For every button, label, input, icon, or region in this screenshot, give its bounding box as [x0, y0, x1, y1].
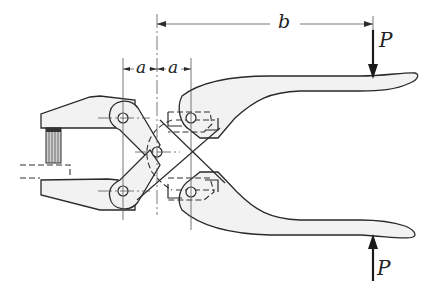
dimension-b — [157, 16, 373, 30]
upper-handle — [179, 73, 418, 138]
force-arrow-top — [368, 30, 378, 79]
label-a-right: a — [168, 59, 178, 76]
crimp-die — [46, 128, 61, 163]
label-force-bottom: P — [377, 258, 390, 278]
open-jaw-phantom — [20, 165, 70, 178]
label-a-left: a — [136, 59, 146, 76]
lower-handle — [179, 172, 415, 238]
pliers-diagram — [0, 0, 428, 289]
label-force-top: P — [379, 30, 392, 50]
label-b: b — [278, 12, 290, 31]
